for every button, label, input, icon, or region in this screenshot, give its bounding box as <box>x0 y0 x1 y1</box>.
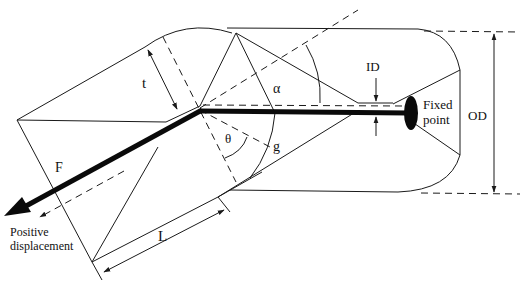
dimension-t <box>148 50 177 109</box>
bent-tube-diagram: t α θ g ID Fixed point OD F L Positive d… <box>0 0 527 298</box>
label-ID: ID <box>366 59 380 74</box>
label-t: t <box>142 75 147 91</box>
labels: t α θ g ID Fixed point OD F L Positive d… <box>10 59 487 253</box>
label-theta: θ <box>225 131 231 146</box>
label-L: L <box>158 228 167 244</box>
label-OD: OD <box>468 108 487 123</box>
label-positive-2: displacement <box>10 239 74 253</box>
wire-rod <box>4 96 418 216</box>
label-alpha: α <box>273 81 281 96</box>
label-g: g <box>273 139 280 154</box>
label-F: F <box>55 160 63 175</box>
label-fixed-point-1: Fixed <box>423 97 453 112</box>
label-fixed-point-2: point <box>423 112 450 127</box>
label-positive-1: Positive <box>10 225 49 239</box>
left-cylinder <box>17 28 275 262</box>
fixed-point-marker <box>404 96 418 130</box>
force-arrowhead <box>4 197 31 216</box>
